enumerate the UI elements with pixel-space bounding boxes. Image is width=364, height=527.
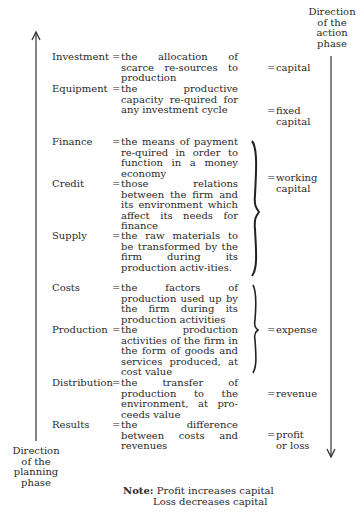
equals-sign: = bbox=[112, 179, 120, 190]
planning-direction-label: Direction of the planning phase bbox=[10, 446, 62, 488]
outcome-label: expense bbox=[276, 325, 317, 336]
outcome-label: profit or loss bbox=[276, 430, 309, 451]
outcome-label-line: capital bbox=[276, 184, 317, 195]
action-label-line: Direction bbox=[306, 7, 358, 18]
definition: the allocation of scarce re-sources to p… bbox=[121, 52, 238, 84]
definition: the factors of production used up by the… bbox=[121, 283, 238, 325]
definition: the production activities of the firm in… bbox=[121, 325, 238, 378]
term: Results bbox=[52, 420, 89, 431]
action-label-line: phase bbox=[306, 39, 358, 50]
note-line-2: Loss decreases capital bbox=[153, 497, 267, 508]
term: Equipment bbox=[52, 84, 108, 95]
term: Investment bbox=[52, 52, 109, 63]
outcome-label-line: capital bbox=[276, 117, 310, 128]
term: Finance bbox=[52, 137, 93, 148]
outcome-label-line: profit bbox=[276, 430, 309, 441]
equals-sign: = bbox=[267, 389, 275, 400]
equals-sign: = bbox=[267, 63, 275, 74]
outcome-label: working capital bbox=[276, 173, 317, 194]
note-line-1: Profit increases capital bbox=[157, 485, 274, 496]
expense-brace bbox=[253, 285, 258, 373]
working-capital-brace bbox=[252, 141, 259, 276]
equals-sign: = bbox=[112, 137, 120, 148]
note: Note: Profit increases capital bbox=[123, 486, 274, 497]
outcome-label: fixed capital bbox=[276, 106, 310, 127]
definition: the raw materials to be transformed by t… bbox=[121, 231, 238, 273]
equals-sign: = bbox=[267, 106, 275, 117]
equals-sign: = bbox=[112, 420, 120, 431]
term: Distribution bbox=[52, 378, 113, 389]
action-label-line: action bbox=[306, 28, 358, 39]
definition: the productive capacity re-quired for an… bbox=[121, 84, 238, 116]
outcome-label: capital bbox=[276, 63, 310, 74]
action-direction-label: Direction of the action phase bbox=[306, 7, 358, 49]
outcome-label-line: or loss bbox=[276, 441, 309, 452]
planning-label-line: planning bbox=[10, 467, 62, 478]
equals-sign: = bbox=[112, 52, 120, 63]
equals-sign: = bbox=[112, 84, 120, 95]
equals-sign: = bbox=[112, 231, 120, 242]
term: Production bbox=[52, 325, 108, 336]
definition: those relations between the firm and its… bbox=[121, 179, 238, 232]
outcome-label-line: fixed bbox=[276, 106, 310, 117]
planning-label-line: phase bbox=[10, 478, 62, 489]
note-prefix: Note: bbox=[123, 485, 153, 496]
term: Credit bbox=[52, 179, 84, 190]
equals-sign: = bbox=[112, 378, 120, 389]
outcome-label-line: working bbox=[276, 173, 317, 184]
term: Supply bbox=[52, 231, 87, 242]
outcome-label: revenue bbox=[276, 389, 317, 400]
definition: the transfer of production to the enviro… bbox=[121, 378, 238, 420]
definition: the difference between costs and revenue… bbox=[121, 420, 238, 452]
equals-sign: = bbox=[267, 173, 275, 184]
planning-label-line: Direction bbox=[10, 446, 62, 457]
term: Costs bbox=[52, 283, 80, 294]
equals-sign: = bbox=[112, 283, 120, 294]
equals-sign: = bbox=[267, 325, 275, 336]
equals-sign: = bbox=[112, 325, 120, 336]
definition: the means of payment re-quired in order … bbox=[121, 137, 238, 179]
equals-sign: = bbox=[267, 430, 275, 441]
